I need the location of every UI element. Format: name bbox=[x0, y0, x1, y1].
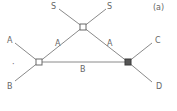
node-left bbox=[36, 59, 42, 65]
label-edge-left-a: A bbox=[55, 39, 61, 48]
feynman-diagram: S S (a) A B C D A A B · bbox=[0, 0, 177, 111]
leg-s-left bbox=[59, 9, 83, 27]
node-right-filled bbox=[125, 59, 131, 65]
leg-a bbox=[15, 43, 39, 62]
node-top bbox=[80, 24, 86, 30]
label-edge-bottom-b: B bbox=[80, 65, 86, 74]
leg-b bbox=[15, 62, 39, 81]
stray-dot: · bbox=[12, 60, 15, 69]
label-ext-b: B bbox=[7, 82, 13, 91]
label-ext-d: D bbox=[156, 82, 162, 91]
label-s-left: S bbox=[51, 2, 56, 11]
label-edge-right-a: A bbox=[107, 39, 113, 48]
panel-label: (a) bbox=[153, 3, 164, 12]
edge-left-top bbox=[39, 27, 83, 62]
label-s-right: S bbox=[107, 2, 112, 11]
label-ext-c: C bbox=[155, 36, 161, 45]
leg-c bbox=[128, 43, 152, 62]
label-ext-a: A bbox=[7, 36, 13, 45]
leg-d bbox=[128, 62, 152, 82]
edge-top-right bbox=[83, 27, 128, 62]
